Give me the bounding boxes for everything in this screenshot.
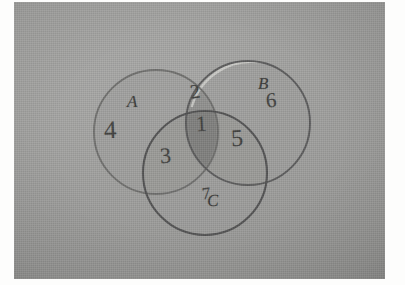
venn-diagram: [14, 2, 385, 279]
region-number-c: 7: [201, 185, 211, 203]
screenshot-root: A B C 1 2 3 4 5 6 7: [0, 0, 405, 285]
set-label-a: A: [127, 93, 137, 110]
region-fills: [14, 2, 385, 279]
region-abc-fill: [14, 2, 385, 279]
region-number-abc: 1: [195, 113, 207, 136]
region-number-b: 6: [265, 90, 277, 112]
region-number-bc: 5: [230, 126, 243, 151]
region-number-ac: 3: [159, 145, 172, 168]
region-number-a: 4: [104, 117, 117, 142]
photograph: A B C 1 2 3 4 5 6 7: [14, 2, 385, 279]
